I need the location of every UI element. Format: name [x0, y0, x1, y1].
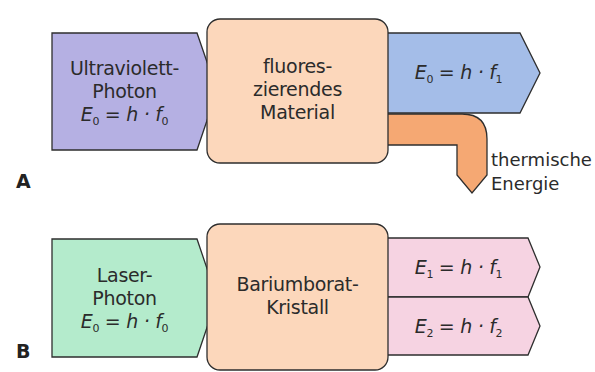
crystal-line2: Kristall	[207, 296, 388, 319]
thermal-line2: Energie	[491, 172, 592, 196]
output-photon-2-label: E2 = h · f2	[386, 315, 531, 345]
emitted-photon-label: E0 = h · f1	[386, 61, 531, 91]
output-photon-1-equation: E1 = h · f1	[386, 256, 531, 286]
panel-label-b: B	[16, 340, 30, 362]
laser-photon-equation: E0 = h · f0	[52, 310, 197, 340]
laser-photon-line1: Laser-	[52, 264, 197, 287]
laser-photon-line2: Photon	[52, 287, 197, 310]
fluorescent-material-label: fluores- zierendes Material	[207, 55, 388, 124]
output-photon-1-label: E1 = h · f1	[386, 256, 531, 286]
thermal-energy-pipe	[386, 114, 487, 193]
thermal-energy-label: thermische Energie	[491, 148, 592, 196]
material-line1: fluores-	[207, 55, 388, 78]
barium-borate-label: Bariumborat- Kristall	[207, 273, 388, 319]
emitted-photon-equation: E0 = h · f1	[386, 61, 531, 91]
uv-photon-equation: E0 = h · f0	[52, 103, 197, 133]
uv-photon-line1: Ultraviolett-	[52, 57, 197, 80]
output-photon-2-equation: E2 = h · f2	[386, 315, 531, 345]
material-line3: Material	[207, 101, 388, 124]
uv-photon-line2: Photon	[52, 80, 197, 103]
laser-photon-label: Laser- Photon E0 = h · f0	[52, 264, 197, 340]
thermal-line1: thermische	[491, 148, 592, 172]
panel-label-a: A	[16, 170, 31, 192]
material-line2: zierendes	[207, 78, 388, 101]
crystal-line1: Bariumborat-	[207, 273, 388, 296]
uv-photon-label: Ultraviolett- Photon E0 = h · f0	[52, 57, 197, 133]
